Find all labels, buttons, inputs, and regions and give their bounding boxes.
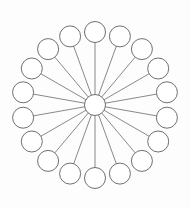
leaf-node-7[interactable]: [148, 131, 169, 152]
spoke-edge-7: [104, 110, 149, 136]
leaf-node-3[interactable]: [131, 39, 152, 60]
spoke-edge-14: [33, 107, 84, 116]
leaf-node-10[interactable]: [85, 168, 106, 189]
leaf-node-6[interactable]: [156, 107, 177, 128]
spoke-edge-16: [41, 74, 86, 100]
spoke-edge-17: [55, 57, 88, 97]
leaf-node-18[interactable]: [60, 26, 81, 47]
star-graph-svg: [0, 0, 191, 208]
leaf-node-14[interactable]: [13, 107, 34, 128]
spoke-edge-3: [102, 57, 135, 97]
leaf-node-13[interactable]: [21, 131, 42, 152]
spoke-edge-12: [55, 113, 88, 153]
spoke-edge-2: [99, 46, 117, 95]
leaf-node-4[interactable]: [148, 58, 169, 79]
leaf-node-17[interactable]: [38, 39, 59, 60]
spoke-edge-11: [74, 115, 92, 164]
leaf-node-16[interactable]: [21, 58, 42, 79]
leaf-node-11[interactable]: [60, 163, 81, 184]
leaf-node-12[interactable]: [38, 150, 59, 171]
spoke-edge-18: [74, 46, 92, 95]
spoke-edge-4: [104, 74, 149, 100]
leaf-node-8[interactable]: [131, 150, 152, 171]
diagram-canvas: Radial star graph: [0, 0, 191, 208]
spoke-edge-6: [105, 107, 156, 116]
leaf-node-2[interactable]: [109, 26, 130, 47]
center-hub-node[interactable]: [85, 95, 106, 116]
spoke-edge-13: [41, 110, 86, 136]
leaf-node-1[interactable]: [85, 22, 106, 43]
spoke-edge-8: [102, 113, 135, 153]
leaf-node-9[interactable]: [109, 163, 130, 184]
spoke-edge-9: [99, 115, 117, 164]
spoke-edge-5: [105, 94, 156, 103]
spoke-edge-15: [33, 94, 84, 103]
leaf-node-5[interactable]: [156, 82, 177, 103]
leaf-node-15[interactable]: [13, 82, 34, 103]
